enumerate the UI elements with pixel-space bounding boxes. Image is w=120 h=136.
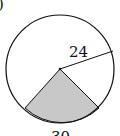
part-marker: ) (0, 0, 4, 13)
arc-length-label: 30 (51, 128, 70, 136)
center-point (59, 68, 62, 71)
radius-label: 24 (69, 43, 88, 61)
circle-sector-diagram: ) 24 30 (0, 0, 120, 136)
